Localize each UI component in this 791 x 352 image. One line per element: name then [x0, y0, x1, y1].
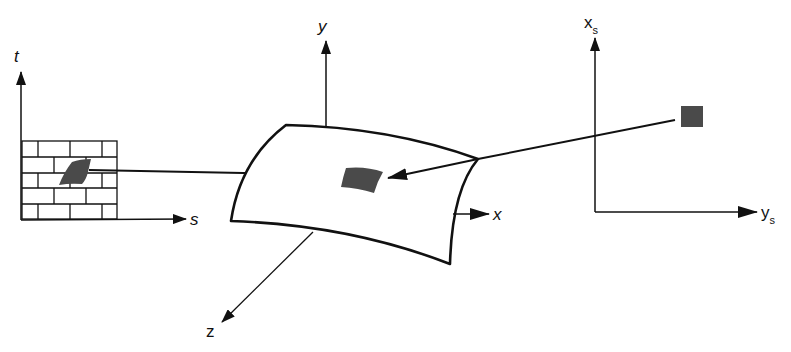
texture-patch [59, 159, 91, 185]
texture-mapping-diagram: t s [0, 0, 791, 352]
z-axis-label: z [206, 322, 215, 341]
screen-space: xs ys [584, 13, 776, 226]
object-space: y z x [206, 17, 502, 341]
y-axis-label: y [317, 17, 328, 36]
xs-axis-label: xs [584, 13, 599, 36]
screen-pixel [681, 106, 703, 127]
curved-surface [231, 125, 478, 264]
z-axis [222, 232, 313, 322]
s-axis-label: s [190, 210, 199, 229]
screen-to-surface-line [478, 120, 675, 159]
ys-axis-label: ys [761, 203, 776, 226]
x-axis-label: x [492, 205, 502, 224]
t-axis-label: t [14, 47, 20, 66]
texture-space: t s [14, 47, 199, 229]
